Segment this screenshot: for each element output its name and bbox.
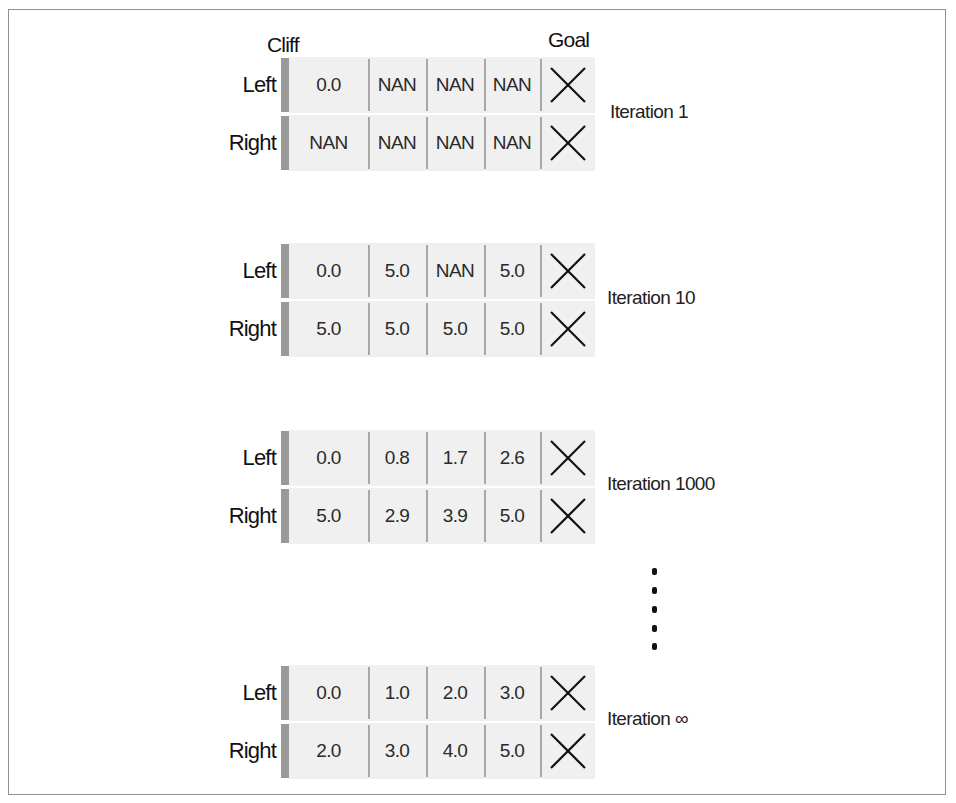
q-value-cell: 5.0 — [484, 488, 540, 544]
cliff-bar — [281, 116, 289, 170]
q-value-cell: NAN — [368, 115, 426, 171]
q-value-cell: NAN — [426, 115, 484, 171]
iteration-label: Iteration 1000 — [607, 473, 715, 495]
cell-divider — [540, 432, 542, 484]
cliff-bar — [281, 489, 289, 543]
q-value-cell: 0.0 — [289, 665, 368, 721]
q-value-cell: NAN — [368, 57, 426, 113]
q-table-row-right: Right5.05.05.05.0 — [0, 301, 956, 357]
q-value-cell: 2.9 — [368, 488, 426, 544]
q-table-row-left: Left0.01.02.03.0 — [0, 665, 956, 721]
row-label-left: Left — [243, 665, 277, 721]
cliff-bar — [281, 58, 289, 112]
q-value-cell: 5.0 — [368, 243, 426, 299]
q-value-cell: 2.0 — [289, 723, 368, 779]
q-value-cell: 5.0 — [484, 243, 540, 299]
q-table-row-left: Left0.05.0NAN5.0 — [0, 243, 956, 299]
cell-divider — [426, 490, 428, 542]
cell-divider — [540, 117, 542, 169]
q-value-cell: NAN — [426, 57, 484, 113]
cliff-bar — [281, 431, 289, 485]
cell-divider — [484, 303, 486, 355]
cell-divider — [484, 432, 486, 484]
cell-divider — [426, 667, 428, 719]
row-label-left: Left — [243, 430, 277, 486]
goal-header: Goal — [548, 28, 589, 52]
x-mark-icon — [548, 731, 588, 771]
cliff-bar — [281, 666, 289, 720]
x-mark-icon — [548, 123, 588, 163]
x-mark-icon — [548, 251, 588, 291]
q-value-cell: 5.0 — [484, 301, 540, 357]
cell-divider — [426, 303, 428, 355]
q-table-row-right: Right5.02.93.95.0 — [0, 488, 956, 544]
x-mark-icon — [548, 65, 588, 105]
x-mark-icon — [548, 673, 588, 713]
q-value-cell: 5.0 — [368, 301, 426, 357]
cell-divider — [426, 725, 428, 777]
cell-divider — [426, 117, 428, 169]
cell-divider — [484, 117, 486, 169]
q-value-cell: 1.0 — [368, 665, 426, 721]
cell-divider — [426, 245, 428, 297]
q-value-cell: 2.0 — [426, 665, 484, 721]
q-value-cell: 1.7 — [426, 430, 484, 486]
q-table-row-right: Right2.03.04.05.0 — [0, 723, 956, 779]
q-value-cell: 0.0 — [289, 57, 368, 113]
x-mark-icon — [548, 309, 588, 349]
q-table-row-left: Left0.0NANNANNAN — [0, 57, 956, 113]
cell-divider — [540, 667, 542, 719]
q-value-cell: 3.0 — [368, 723, 426, 779]
cliff-bar — [281, 724, 289, 778]
row-label-left: Left — [243, 57, 277, 113]
row-label-right: Right — [229, 115, 276, 171]
cell-divider — [540, 303, 542, 355]
row-label-right: Right — [229, 723, 276, 779]
row-label-right: Right — [229, 488, 276, 544]
cell-divider — [368, 303, 370, 355]
cell-divider — [368, 59, 370, 111]
q-value-cell: NAN — [484, 115, 540, 171]
q-value-cell: 5.0 — [289, 488, 368, 544]
x-mark-icon — [548, 496, 588, 536]
cliff-bar — [281, 302, 289, 356]
q-value-cell: 0.0 — [289, 243, 368, 299]
cell-divider — [368, 490, 370, 542]
iteration-label: Iteration ∞ — [607, 708, 688, 730]
cell-divider — [368, 725, 370, 777]
cell-divider — [540, 245, 542, 297]
cell-divider — [540, 59, 542, 111]
iteration-label: Iteration 1 — [610, 101, 688, 123]
vertical-ellipsis-icon — [652, 568, 658, 652]
q-table-row-left: Left0.00.81.72.6 — [0, 430, 956, 486]
q-value-cell: 5.0 — [426, 301, 484, 357]
cell-divider — [368, 667, 370, 719]
cell-divider — [484, 245, 486, 297]
cell-divider — [368, 432, 370, 484]
q-value-cell: 4.0 — [426, 723, 484, 779]
q-value-cell: 5.0 — [484, 723, 540, 779]
cell-divider — [426, 432, 428, 484]
cell-divider — [484, 59, 486, 111]
q-value-cell: 3.0 — [484, 665, 540, 721]
x-mark-icon — [548, 438, 588, 478]
q-value-cell: 0.8 — [368, 430, 426, 486]
cell-divider — [540, 725, 542, 777]
cliff-bar — [281, 244, 289, 298]
iteration-label: Iteration 10 — [607, 287, 695, 309]
cell-divider — [540, 490, 542, 542]
row-label-left: Left — [243, 243, 277, 299]
q-value-cell: 5.0 — [289, 301, 368, 357]
cell-divider — [484, 490, 486, 542]
cell-divider — [426, 59, 428, 111]
cliff-header: Cliff — [267, 33, 299, 57]
cell-divider — [484, 667, 486, 719]
q-value-cell: NAN — [426, 243, 484, 299]
q-table-row-right: RightNANNANNANNAN — [0, 115, 956, 171]
row-label-right: Right — [229, 301, 276, 357]
q-value-cell: 0.0 — [289, 430, 368, 486]
cell-divider — [484, 725, 486, 777]
q-value-cell: NAN — [484, 57, 540, 113]
q-value-cell: 2.6 — [484, 430, 540, 486]
q-value-cell: 3.9 — [426, 488, 484, 544]
